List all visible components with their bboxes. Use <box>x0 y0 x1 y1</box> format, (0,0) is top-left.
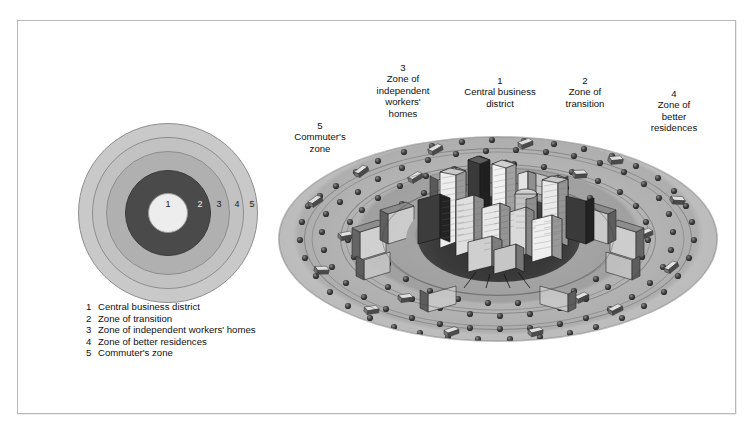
callout-line: Zone of <box>566 86 605 97</box>
city-ellipse <box>278 136 718 342</box>
legend-item: 1Central business district <box>86 301 256 313</box>
callout-zone-1: 1 Central business district <box>464 75 535 109</box>
callout-line: better <box>651 111 697 122</box>
city-artwork <box>272 128 724 350</box>
callout-zone-2: 2 Zone of transition <box>566 75 605 109</box>
callout-number: 2 <box>566 75 605 86</box>
ring-number-5: 5 <box>249 199 254 209</box>
legend: 1Central business district 2Zone of tran… <box>86 301 256 359</box>
callout-line: district <box>464 98 535 109</box>
ring-number-4: 4 <box>234 199 239 209</box>
legend-item-label: Zone of better residences <box>98 336 207 348</box>
ring-number-3: 3 <box>216 199 221 209</box>
city-illustration: 5 Commuter's zone 3 Zone of independent … <box>272 50 724 350</box>
callout-line: independent <box>377 85 430 96</box>
ring-number-2: 2 <box>197 199 202 209</box>
callout-zone-4: 4 Zone of better residences <box>651 88 697 134</box>
legend-item: 5Commuter's zone <box>86 347 256 359</box>
legend-item-number: 2 <box>86 313 98 325</box>
callout-number: 4 <box>651 88 697 99</box>
callout-line: homes <box>377 108 430 119</box>
callout-line: Central business <box>464 86 535 97</box>
callout-zone-3: 3 Zone of independent workers' homes <box>377 62 430 119</box>
callout-line: Zone of <box>377 73 430 84</box>
legend-item: 2Zone of transition <box>86 313 256 325</box>
callout-number: 1 <box>464 75 535 86</box>
concentric-zone-diagram <box>78 123 258 303</box>
callout-line: Zone of <box>651 99 697 110</box>
callout-labels: 5 Commuter's zone 3 Zone of independent … <box>272 50 724 140</box>
legend-item-label: Zone of independent workers' homes <box>98 324 256 336</box>
legend-item-number: 5 <box>86 347 98 359</box>
legend-item-label: Commuter's zone <box>98 347 173 359</box>
legend-item-label: Zone of transition <box>98 313 172 325</box>
callout-number: 3 <box>377 62 430 73</box>
legend-item: 4Zone of better residences <box>86 336 256 348</box>
callout-line: workers' <box>377 96 430 107</box>
figure-page: 1 2 3 4 5 1Central business district 2Zo… <box>0 0 752 436</box>
downtown-skyline <box>406 138 602 288</box>
callout-line: transition <box>566 98 605 109</box>
legend-item-number: 1 <box>86 301 98 313</box>
legend-item: 3Zone of independent workers' homes <box>86 324 256 336</box>
ring-number-1: 1 <box>165 199 170 209</box>
legend-item-number: 4 <box>86 336 98 348</box>
legend-item-number: 3 <box>86 324 98 336</box>
legend-item-label: Central business district <box>98 301 200 313</box>
